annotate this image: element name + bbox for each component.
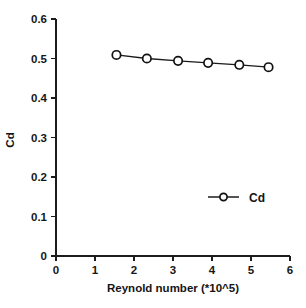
legend: Cd [208,191,265,205]
y-tick-label: 0 [41,250,47,262]
x-tick-label: 1 [92,264,99,276]
x-tick-label: 5 [248,264,255,276]
x-tick-label: 4 [209,264,216,276]
x-tick-label: 6 [287,264,293,276]
data-point-marker [235,61,243,69]
cd-vs-reynolds-line-chart: 00.10.20.30.40.50.6 Cd 0123456 Reynold n… [0,0,306,308]
x-tick-label: 0 [53,264,59,276]
series-cd [112,51,272,72]
legend-label-cd: Cd [249,191,265,205]
chart-container: 00.10.20.30.40.50.6 Cd 0123456 Reynold n… [0,0,306,308]
data-point-marker [264,63,272,71]
data-point-marker [174,57,182,65]
y-tick-label: 0.2 [31,171,47,183]
y-tick-label: 0.5 [31,53,48,65]
cut-off-caption [10,303,296,308]
y-tick-label: 0.4 [31,92,48,104]
data-point-marker [143,54,151,62]
y-tick-label: 0.6 [31,13,47,25]
x-axis-title: Reynold number (*10^5) [107,282,239,294]
y-tick-label: 0.1 [31,211,48,223]
data-point-marker [112,51,120,59]
series-markers-cd [112,51,272,72]
data-point-marker [204,59,212,67]
y-tick-label: 0.3 [31,132,47,144]
y-axis-ticks: 00.10.20.30.40.50.6 [31,13,56,262]
x-tick-label: 2 [131,264,137,276]
x-axis: 0123456 Reynold number (*10^5) [53,256,293,294]
x-tick-label: 3 [170,264,176,276]
y-axis: 00.10.20.30.40.50.6 Cd [4,13,56,262]
y-axis-title: Cd [4,132,16,147]
x-axis-ticks: 0123456 [53,256,293,276]
legend-marker-cd [220,193,227,200]
series-line-cd [116,55,268,67]
